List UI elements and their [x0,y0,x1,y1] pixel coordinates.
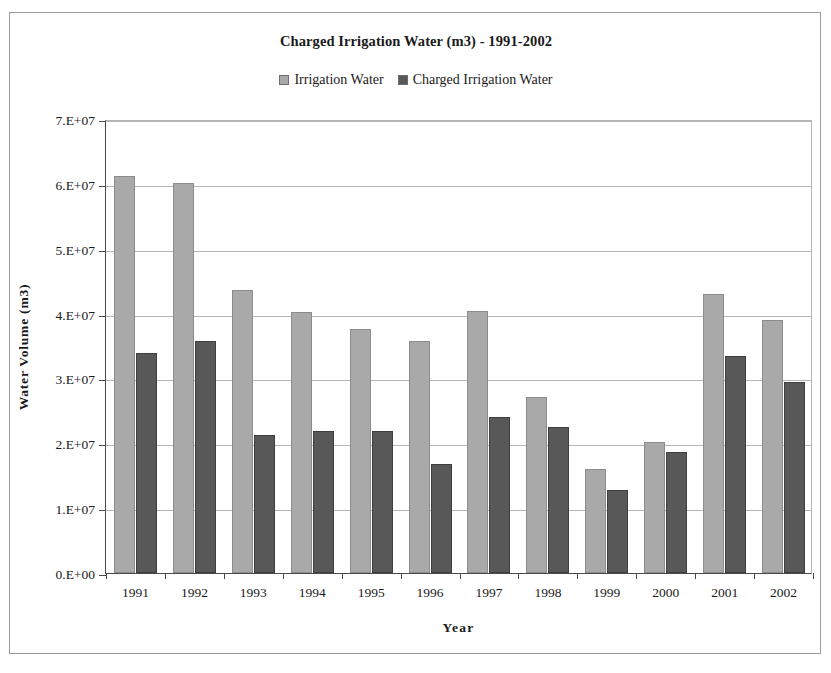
y-tick-label: 7.E+07 [56,113,96,129]
chart-frame: Charged Irrigation Water (m3) - 1991-200… [9,12,821,654]
bar [114,176,135,573]
x-tick-mark [754,573,755,579]
y-tick-label: 2.E+07 [56,437,96,453]
y-tick-mark [99,186,106,187]
y-gridline [106,251,811,252]
x-tick-mark [283,573,284,579]
bar [548,427,569,573]
x-tick-mark [813,573,814,579]
bar [136,353,157,574]
y-tick-mark [99,575,106,576]
y-tick-label: 1.E+07 [56,502,96,518]
y-tick-mark [99,380,106,381]
bar [585,469,606,573]
x-tick-label: 2001 [711,585,738,601]
plot-wrapper: 0.E+001.E+072.E+073.E+074.E+075.E+076.E+… [10,13,822,655]
bar [372,431,393,573]
x-tick-mark [224,573,225,579]
x-tick-mark [165,573,166,579]
y-tick-label: 6.E+07 [56,178,96,194]
bar [607,490,628,573]
bar [431,464,452,573]
bar [195,341,216,573]
y-tick-mark [99,316,106,317]
x-axis-title: Year [105,620,812,636]
y-tick-mark [99,251,106,252]
bar [725,356,746,573]
x-tick-label: 1991 [122,585,149,601]
y-tick-label: 0.E+00 [56,567,96,583]
x-tick-label: 1997 [475,585,502,601]
x-tick-label: 1993 [240,585,267,601]
bar [666,452,687,573]
bar [313,431,334,573]
x-tick-mark [460,573,461,579]
x-tick-mark [401,573,402,579]
bar [350,329,371,573]
x-tick-mark [695,573,696,579]
x-tick-label: 1996 [417,585,444,601]
x-tick-label: 1992 [181,585,208,601]
bar [703,294,724,573]
y-axis-title: Water Volume (m3) [16,284,32,411]
y-tick-label: 3.E+07 [56,372,96,388]
bar [762,320,783,573]
x-tick-label: 2000 [652,585,679,601]
bar [467,311,488,573]
x-tick-mark [577,573,578,579]
x-tick-mark [636,573,637,579]
bar [784,382,805,573]
bar [526,397,547,573]
y-gridline [106,186,811,187]
x-tick-label: 1995 [358,585,385,601]
bar [254,435,275,573]
y-tick-label: 4.E+07 [56,308,96,324]
x-tick-label: 1999 [593,585,620,601]
x-tick-label: 1998 [534,585,561,601]
y-gridline [106,121,811,122]
y-tick-mark [99,445,106,446]
y-tick-label: 5.E+07 [56,243,96,259]
x-tick-mark [106,573,107,579]
bar [409,341,430,573]
bar [291,312,312,573]
bar [644,442,665,573]
x-tick-mark [342,573,343,579]
bar [173,183,194,573]
bar [489,417,510,573]
plot-area: 0.E+001.E+072.E+073.E+074.E+075.E+076.E+… [105,120,812,574]
bar [232,290,253,573]
y-tick-mark [99,510,106,511]
x-tick-label: 1994 [299,585,326,601]
x-tick-label: 2002 [770,585,797,601]
y-tick-mark [99,121,106,122]
x-tick-mark [518,573,519,579]
